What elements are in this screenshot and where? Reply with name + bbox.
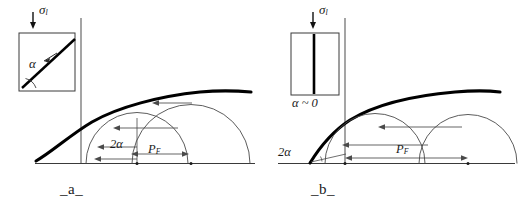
panel-b-wedge-arc (321, 157, 323, 162)
panel-a-load-arrow-head (30, 22, 36, 29)
panel-a-pf-label: PF (148, 143, 160, 156)
panel-b-caption: _b_ (311, 182, 335, 197)
figure-container: σl α 2α PF _a_ σl α ~ 0 2α PF _b_ (0, 0, 527, 209)
panel-b-dim-arrow-right-head (461, 155, 468, 161)
panel-a-center-dot-left (136, 162, 139, 165)
panel-b-pf-label: PF (396, 143, 408, 156)
panel-b-alpha-label: α ~ 0 (292, 97, 318, 110)
panel-b-load-arrow-head (310, 22, 316, 29)
panel-b-center-dot-right (467, 162, 470, 165)
panel-a-dim-arrow-base-head (94, 156, 101, 162)
panel-b-dim-arrow-low-head (345, 155, 352, 161)
panel-a-dim-arrow-mid-head (113, 125, 120, 131)
panel-b-center-dot-left (344, 162, 347, 165)
panel-a-dim-arrow-2alpha-head (97, 144, 104, 150)
panel-b-semicircle-left (325, 114, 425, 164)
panel-a-group (19, 12, 255, 165)
panel-a-caption: _a_ (60, 182, 83, 197)
panel-b-semicircle-right (419, 114, 517, 163)
panel-b-load-label: σl (319, 3, 328, 18)
panel-a-center-dot-right (190, 162, 193, 165)
panel-a-2alpha-label: 2α (110, 138, 123, 151)
panel-b-dim-arrow-top-head (378, 124, 385, 130)
panel-b-2alpha-label: 2α (278, 146, 291, 159)
diagram-canvas (0, 0, 527, 209)
panel-a-alpha-label: α (29, 57, 36, 70)
panel-a-failure-envelope (36, 91, 251, 161)
panel-a-load-label: σl (39, 3, 48, 18)
